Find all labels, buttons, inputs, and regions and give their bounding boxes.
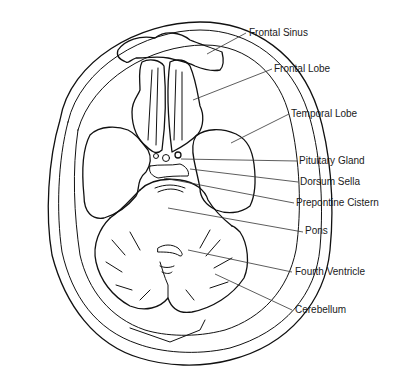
frontal-lobe-left <box>132 60 165 153</box>
dorsum-sella-shape <box>149 164 188 178</box>
frontal-lobe-right <box>168 60 203 152</box>
skull-inner-outline <box>59 30 322 352</box>
pons-outline <box>140 179 232 226</box>
label-frontal-lobe: Frontal Lobe <box>274 63 330 75</box>
label-cerebellum: Cerebellum <box>295 304 346 316</box>
pituitary-gland-shape <box>163 155 170 162</box>
label-dorsum-sella: Dorsum Sella <box>300 176 360 188</box>
brain-section-drawing <box>0 0 401 379</box>
label-pituitary-gland: Pituitary Gland <box>299 155 365 167</box>
label-temporal-lobe: Temporal Lobe <box>291 108 357 120</box>
fourth-ventricle-shape <box>158 245 182 256</box>
occipital-notch <box>130 320 205 342</box>
cerebellum-outline <box>95 218 248 312</box>
label-fourth-ventricle: Fourth Ventricle <box>295 266 365 278</box>
label-frontal-sinus: Frontal Sinus <box>249 27 308 39</box>
label-prepontine-cistern: Prepontine Cistern <box>296 197 379 209</box>
label-pons: Pons <box>305 225 328 237</box>
temporal-lobe-left <box>83 127 150 218</box>
temporal-lobe-right <box>193 130 256 213</box>
anatomy-diagram: Frontal Sinus Frontal Lobe Temporal Lobe… <box>0 0 401 379</box>
